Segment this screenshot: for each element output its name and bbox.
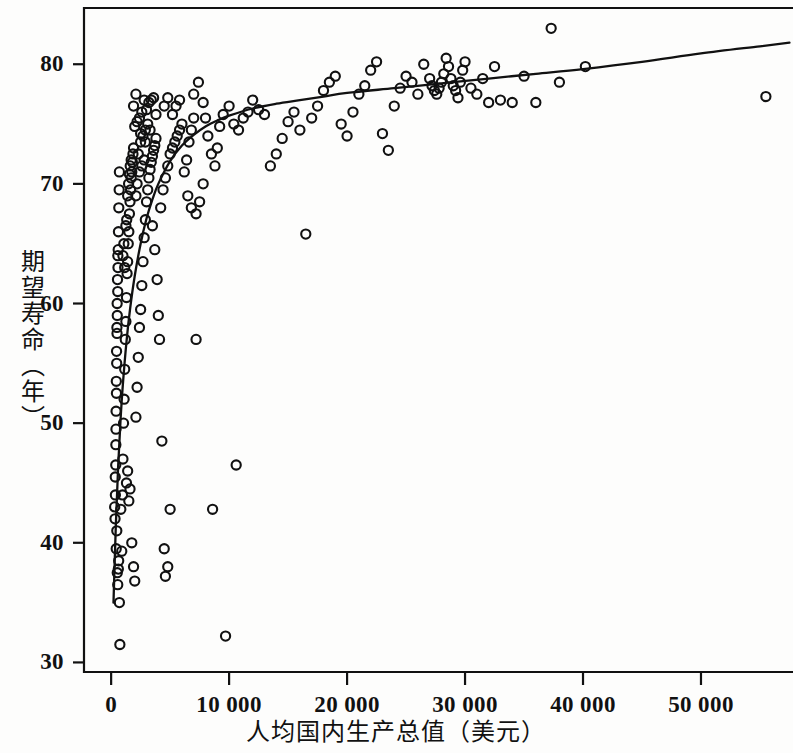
- data-point-marker: [113, 287, 122, 296]
- data-point-marker: [127, 538, 136, 547]
- data-point-marker: [160, 544, 169, 553]
- data-point-marker: [161, 572, 170, 581]
- scatter-plot-figure: 304050607080 010 00020 00030 00040 00050…: [0, 0, 793, 753]
- data-point-marker: [112, 323, 121, 332]
- data-point-marker: [215, 122, 224, 131]
- data-point-marker: [213, 143, 222, 152]
- y-tick-label: 60: [40, 291, 64, 317]
- data-point-marker: [413, 90, 422, 99]
- data-point-marker: [372, 57, 381, 66]
- data-point-marker: [112, 347, 121, 356]
- data-point-marker: [444, 62, 453, 71]
- data-point-marker: [180, 167, 189, 176]
- data-point-marker: [390, 102, 399, 111]
- data-point-marker: [203, 131, 212, 140]
- data-point-markers: [110, 24, 770, 649]
- y-axis-ticks: [73, 64, 84, 662]
- data-point-marker: [360, 81, 369, 90]
- data-point-marker: [199, 98, 208, 107]
- data-point-marker: [143, 185, 152, 194]
- data-point-marker: [419, 60, 428, 69]
- data-point-marker: [195, 197, 204, 206]
- data-point-marker: [191, 335, 200, 344]
- plot-frame: [84, 8, 793, 672]
- data-point-marker: [115, 640, 124, 649]
- data-point-marker: [135, 323, 144, 332]
- data-point-marker: [150, 245, 159, 254]
- data-point-marker: [113, 275, 122, 284]
- data-point-marker: [307, 113, 316, 122]
- data-point-marker: [301, 230, 310, 239]
- data-point-marker: [115, 167, 124, 176]
- data-point-marker: [138, 257, 147, 266]
- x-axis-ticks: [111, 672, 701, 685]
- data-point-marker: [134, 353, 143, 362]
- data-point-marker: [129, 562, 138, 571]
- data-point-marker: [157, 437, 166, 446]
- data-point-marker: [113, 311, 122, 320]
- y-tick-label: 40: [40, 530, 64, 556]
- x-tick-label: 0: [105, 692, 117, 718]
- x-tick-label: 40 000: [550, 692, 616, 718]
- data-point-marker: [289, 107, 298, 116]
- data-point-marker: [182, 155, 191, 164]
- data-point-marker: [154, 311, 163, 320]
- data-point-marker: [508, 98, 517, 107]
- data-point-marker: [761, 92, 770, 101]
- data-point-marker: [151, 110, 160, 119]
- data-point-marker: [319, 86, 328, 95]
- data-point-marker: [153, 275, 162, 284]
- data-point-marker: [283, 117, 292, 126]
- data-point-marker: [490, 62, 499, 71]
- y-tick-label: 70: [40, 171, 64, 197]
- data-point-marker: [112, 377, 121, 386]
- data-point-marker: [547, 24, 556, 33]
- plot-canvas: [0, 0, 793, 753]
- data-point-marker: [183, 191, 192, 200]
- data-point-marker: [278, 134, 287, 143]
- data-point-marker: [122, 293, 131, 302]
- data-point-marker: [331, 72, 340, 81]
- data-point-marker: [123, 466, 132, 475]
- data-point-marker: [221, 632, 230, 641]
- x-axis-title: 人均国内生产总值（美元）: [246, 712, 546, 747]
- data-point-marker: [194, 78, 203, 87]
- data-point-marker: [130, 576, 139, 585]
- data-point-marker: [210, 161, 219, 170]
- data-point-marker: [232, 460, 241, 469]
- data-point-marker: [131, 413, 140, 422]
- y-axis-title: 期望寿命（年）: [8, 249, 42, 431]
- x-tick-label: 50 000: [668, 692, 734, 718]
- data-point-marker: [189, 113, 198, 122]
- data-point-marker: [201, 113, 210, 122]
- data-point-marker: [137, 281, 146, 290]
- data-point-marker: [225, 102, 234, 111]
- data-point-marker: [163, 562, 172, 571]
- data-point-marker: [136, 305, 145, 314]
- data-point-marker: [129, 102, 138, 111]
- data-point-marker: [378, 129, 387, 138]
- data-point-marker: [342, 131, 351, 140]
- data-point-marker: [166, 505, 175, 514]
- data-point-marker: [496, 96, 505, 105]
- data-point-marker: [124, 496, 133, 505]
- data-point-marker: [132, 383, 141, 392]
- data-point-marker: [189, 90, 198, 99]
- data-point-marker: [131, 90, 140, 99]
- data-point-marker: [248, 96, 257, 105]
- data-point-marker: [115, 598, 124, 607]
- data-point-marker: [313, 102, 322, 111]
- data-point-marker: [114, 203, 123, 212]
- data-point-marker: [272, 149, 281, 158]
- data-point-marker: [148, 221, 157, 230]
- data-point-marker: [111, 407, 120, 416]
- data-point-marker: [199, 179, 208, 188]
- data-point-marker: [472, 90, 481, 99]
- data-point-marker: [384, 146, 393, 155]
- y-tick-label: 30: [40, 649, 64, 675]
- data-point-marker: [348, 107, 357, 116]
- y-tick-label: 80: [40, 51, 64, 77]
- data-point-marker: [531, 98, 540, 107]
- data-point-marker: [208, 505, 217, 514]
- y-tick-label: 50: [40, 410, 64, 436]
